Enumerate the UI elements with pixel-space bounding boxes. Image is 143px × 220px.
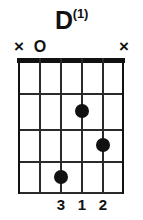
chord-name-title: D(1) bbox=[0, 2, 143, 35]
string-line-5 bbox=[102, 58, 104, 194]
fret-line-4 bbox=[18, 192, 124, 194]
string-line-1 bbox=[18, 58, 20, 194]
string-marker-1-mute: × bbox=[10, 38, 28, 56]
nut-bar bbox=[17, 58, 125, 63]
fret-line-3 bbox=[18, 161, 124, 163]
string-line-4 bbox=[81, 58, 83, 194]
finger-number-string4: 1 bbox=[74, 196, 90, 214]
string-marker-6-mute: × bbox=[115, 38, 133, 56]
finger-number-string3: 3 bbox=[53, 196, 69, 214]
string-line-6 bbox=[122, 58, 124, 194]
string-marker-2-open: O bbox=[31, 38, 49, 56]
chord-diagram: D(1) × O × 3 1 2 bbox=[0, 0, 143, 220]
string-line-2 bbox=[39, 58, 41, 194]
finger-number-string5: 2 bbox=[95, 196, 111, 214]
finger-dot-string5-fret3 bbox=[96, 138, 110, 152]
fret-line-1 bbox=[18, 93, 124, 95]
string-marker-row: × O × bbox=[0, 38, 143, 58]
finger-dot-string4-fret2 bbox=[75, 104, 89, 118]
finger-dot-string3-fret4 bbox=[54, 170, 68, 184]
fingering-row: 3 1 2 bbox=[0, 196, 143, 218]
fretboard-grid bbox=[18, 58, 124, 194]
chord-variant-label: (1) bbox=[73, 6, 88, 21]
fret-line-2 bbox=[18, 129, 124, 131]
chord-root-label: D bbox=[55, 6, 73, 34]
